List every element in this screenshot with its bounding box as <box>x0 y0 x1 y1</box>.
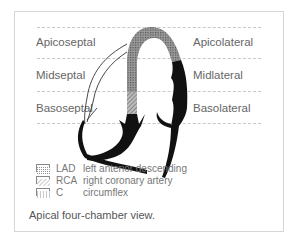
heart-diagram <box>15 12 285 233</box>
legend-item-lad: LAD left anterior descending <box>36 162 187 174</box>
circumflex-territory <box>171 60 187 126</box>
legend-label: left anterior descending <box>83 163 187 174</box>
legend: LAD left anterior descending RCA right c… <box>36 162 187 198</box>
legend-label: right coronary artery <box>83 175 172 186</box>
figure-caption: Apical four-chamber view. <box>29 209 155 221</box>
valve-leaflet <box>87 108 97 120</box>
legend-label: circumflex <box>83 187 128 198</box>
legend-item-circumflex: C circumflex <box>36 186 187 198</box>
septal-base <box>87 114 145 161</box>
lateral-base-branch <box>157 112 171 128</box>
rca-territory <box>127 92 137 114</box>
grid-swatch-icon <box>36 188 50 196</box>
legend-abbr: RCA <box>56 175 83 186</box>
hatched-swatch-icon <box>36 176 50 184</box>
figure-frame: Apicoseptal Midseptal Basoseptal Apicola… <box>14 11 284 232</box>
legend-abbr: LAD <box>56 163 83 174</box>
rv-free-wall-inner <box>87 52 127 122</box>
lad-territory <box>127 27 181 92</box>
dotted-swatch-icon <box>36 164 50 172</box>
legend-abbr: C <box>56 187 83 198</box>
legend-item-rca: RCA right coronary artery <box>36 174 187 186</box>
